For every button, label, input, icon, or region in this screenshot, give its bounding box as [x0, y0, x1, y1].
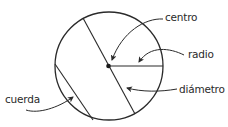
center-dot [106, 64, 111, 69]
label-centro: centro [165, 12, 197, 23]
diametro-arrow-icon [127, 88, 177, 91]
label-cuerda: cuerda [5, 94, 40, 105]
label-radio: radio [188, 49, 214, 60]
chord-line [55, 64, 93, 120]
label-diametro: diámetro [179, 84, 225, 95]
